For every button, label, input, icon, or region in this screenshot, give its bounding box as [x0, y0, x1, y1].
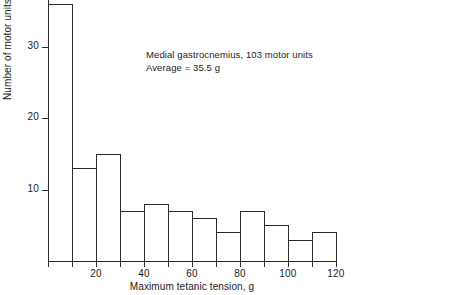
histogram-bar [96, 154, 121, 261]
x-tick-mark [264, 261, 265, 267]
histogram-bar [216, 232, 241, 261]
x-tick-mark [312, 261, 313, 267]
x-tick-mark [336, 261, 337, 267]
x-tick-mark [168, 261, 169, 267]
histogram-bar [72, 168, 97, 261]
x-tick-label: 20 [90, 268, 102, 279]
x-tick-mark [144, 261, 145, 267]
x-tick-label: 80 [234, 268, 246, 279]
y-tick-label: 10 [27, 183, 39, 194]
annotation-line-1: Medial gastrocnemius, 103 motor units [146, 48, 313, 61]
histogram-bar [144, 204, 169, 261]
histogram-bar [120, 211, 145, 261]
x-tick-label: 60 [186, 268, 198, 279]
x-tick-mark [96, 261, 97, 267]
x-tick-label: 40 [138, 268, 150, 279]
y-tick-label: 20 [27, 111, 39, 122]
y-tick-label: 30 [27, 40, 39, 51]
x-tick-mark [288, 261, 289, 267]
x-tick-mark [48, 261, 49, 267]
histogram-bar [168, 211, 193, 261]
plot-area [48, 0, 336, 261]
histogram-bar [288, 240, 313, 261]
annotation-line-2: Average = 35.5 g [146, 61, 313, 74]
x-axis-title: Maximum tetanic tension, g [48, 281, 336, 292]
chart-annotation: Medial gastrocnemius, 103 motor units Av… [146, 48, 313, 74]
x-tick-label: 120 [327, 268, 344, 279]
histogram-bar [240, 211, 265, 261]
y-axis-title: Number of motor units [2, 0, 13, 100]
x-tick-mark [72, 261, 73, 267]
histogram-figure: 102030 20406080100120 Medial gastrocnemi… [0, 0, 458, 295]
histogram-bar [312, 232, 337, 261]
x-tick-mark [120, 261, 121, 267]
histogram-bar [48, 4, 73, 261]
histogram-bar [192, 218, 217, 261]
x-tick-label: 100 [279, 268, 296, 279]
histogram-bar [264, 225, 289, 261]
x-tick-mark [216, 261, 217, 267]
x-tick-mark [192, 261, 193, 267]
x-tick-mark [240, 261, 241, 267]
